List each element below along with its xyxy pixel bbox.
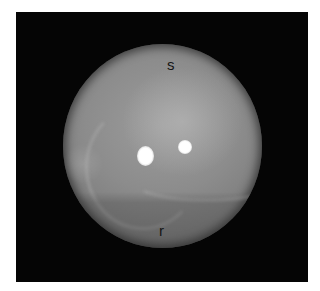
label-s: s — [167, 57, 175, 72]
circular-view: s r — [63, 44, 262, 248]
darker-lower-region — [63, 192, 262, 248]
photo-frame: s r — [16, 12, 308, 282]
light-reflection-small — [178, 140, 192, 154]
light-reflection-large — [137, 146, 154, 166]
label-r: r — [159, 223, 164, 238]
